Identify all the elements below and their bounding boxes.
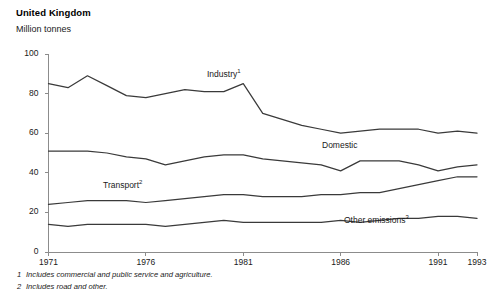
- footnote-2: 2Includes road and other.: [17, 282, 108, 291]
- footnote-1: 1Includes commercial and public service …: [17, 270, 213, 279]
- y-tick-20: 20: [13, 206, 39, 216]
- chart-series-lines: [49, 76, 478, 226]
- line-chart-svg: [0, 0, 499, 293]
- chart-figure: United Kingdom Million tonnes 0204060801…: [0, 0, 499, 293]
- chart-axes: [45, 54, 478, 256]
- chart-plot-area: [0, 0, 499, 293]
- x-tick-1981: 1981: [223, 257, 263, 267]
- y-tick-80: 80: [13, 88, 39, 98]
- x-tick-1976: 1976: [126, 257, 166, 267]
- series-line-domestic: [49, 151, 478, 171]
- series-label-domestic: Domestic: [322, 140, 357, 150]
- y-tick-0: 0: [13, 246, 39, 256]
- x-tick-1993: 1993: [457, 257, 497, 267]
- x-tick-1986: 1986: [321, 257, 361, 267]
- x-tick-1991: 1991: [418, 257, 458, 267]
- series-label-industry: Industry1: [207, 69, 241, 79]
- y-tick-40: 40: [13, 167, 39, 177]
- y-tick-100: 100: [13, 48, 39, 58]
- series-line-industry: [49, 76, 478, 133]
- x-tick-1971: 1971: [29, 257, 69, 267]
- series-label-other-emissions: Other emissions3: [344, 215, 409, 225]
- y-tick-60: 60: [13, 127, 39, 137]
- series-line-other-emissions: [49, 216, 478, 226]
- series-label-transport: Transport2: [103, 180, 142, 190]
